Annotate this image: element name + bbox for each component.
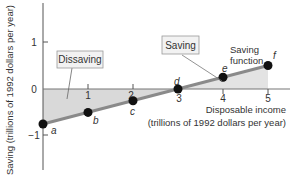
point-label-d: d (174, 76, 180, 87)
y-tick-label-0: 0 (31, 84, 37, 95)
y-axis-label: Saving (trillions of 1992 dollars per ye… (4, 5, 15, 175)
dissaving-label: Dissaving (58, 54, 101, 65)
x-axis-label-line2: (trillions of 1992 dollars per year) (148, 117, 286, 128)
point-label-b: b (93, 115, 99, 126)
point-b (84, 108, 93, 117)
point-a (39, 120, 48, 129)
point-f (264, 61, 273, 70)
x-tick-label-3: 3 (176, 93, 182, 104)
x-tick-label-1: 1 (85, 90, 91, 101)
saving-function-label-line1: Saving (230, 44, 259, 55)
saving-callout-pointer (182, 55, 222, 81)
x-tick-label-4: 4 (220, 93, 226, 104)
point-label-a: a (51, 125, 57, 136)
point-label-c: c (130, 106, 135, 117)
saving-label: Saving (165, 40, 196, 51)
point-label-f: f (273, 50, 277, 61)
x-tick-label-5: 5 (265, 93, 271, 104)
saving-function-chart: 1 0 −1 1 2 3 4 5 a b c d e f Dissaving S… (0, 0, 297, 192)
saving-function-label-line2: function (230, 55, 263, 66)
point-c (129, 96, 138, 105)
x-axis-label-line1: Disposable income (206, 104, 286, 115)
point-label-e: e (222, 63, 228, 74)
y-tick-label-1: 1 (31, 37, 37, 48)
y-tick-label-neg1: −1 (28, 130, 40, 141)
point-e (219, 73, 228, 82)
